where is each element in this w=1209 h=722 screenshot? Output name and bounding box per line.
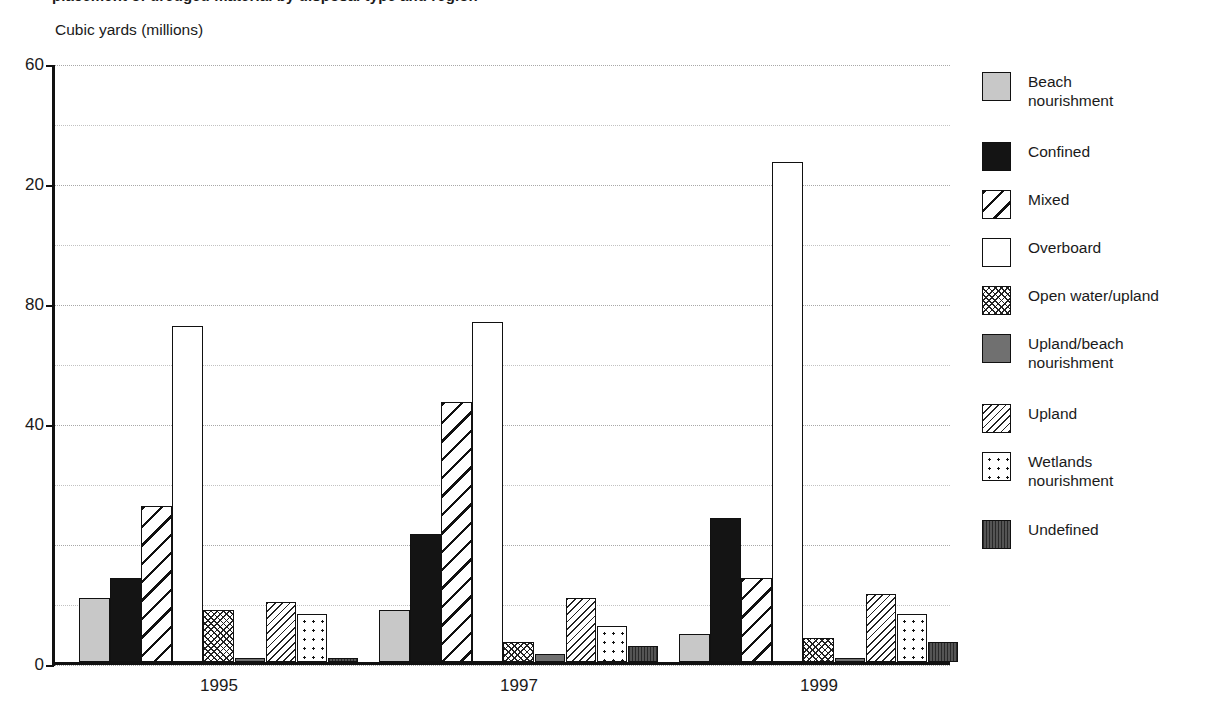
- bar-mixed-1999[interactable]: [741, 578, 772, 662]
- legend-item-wetlands-nourishment[interactable]: Wetlands nourishment: [982, 452, 1113, 490]
- legend-swatch-icon: [982, 286, 1011, 315]
- legend-item-label: Overboard: [1028, 238, 1101, 258]
- legend-item-upland-beach-nourishment[interactable]: Upland/beach nourishment: [982, 334, 1124, 372]
- legend-swatch-icon: [982, 142, 1011, 171]
- page-title-clipped: placement of dredged material by disposa…: [52, 0, 1052, 10]
- legend-swatch-icon: [982, 520, 1011, 549]
- legend-item-open-water-upland[interactable]: Open water/upland: [982, 286, 1159, 315]
- legend-swatch-icon: [982, 404, 1011, 433]
- legend-swatch-icon: [982, 452, 1011, 481]
- bar-wetlands-nourishment-1997[interactable]: [597, 626, 628, 662]
- y-tick-label: 20: [0, 175, 44, 195]
- bar-overboard-1997[interactable]: [472, 322, 503, 662]
- legend-item-label: Undefined: [1028, 520, 1099, 540]
- legend-item-overboard[interactable]: Overboard: [982, 238, 1101, 267]
- y-axis-tick-labels: 602080400: [0, 65, 44, 665]
- legend-item-label: Upland/beach nourishment: [1028, 334, 1124, 372]
- bar-undefined-1997[interactable]: [628, 646, 659, 662]
- y-tick-label: 40: [0, 415, 44, 435]
- legend-item-label: Beach nourishment: [1028, 72, 1113, 110]
- y-tick-label: 0: [0, 655, 44, 675]
- plot-area: [52, 65, 950, 665]
- y-axis-unit-caption: Cubic yards (millions): [55, 21, 203, 39]
- bar-overboard-1995[interactable]: [172, 326, 203, 662]
- y-tick-label: 80: [0, 295, 44, 315]
- legend-item-beach-nourishment[interactable]: Beach nourishment: [982, 72, 1113, 110]
- bar-series-container: [55, 65, 950, 662]
- y-tick-label: 60: [0, 55, 44, 75]
- bar-confined-1999[interactable]: [710, 518, 741, 662]
- bar-mixed-1995[interactable]: [141, 506, 172, 662]
- legend-item-label: Open water/upland: [1028, 286, 1159, 306]
- bar-overboard-1999[interactable]: [772, 162, 803, 662]
- legend-item-upland[interactable]: Upland: [982, 404, 1077, 433]
- bar-upland-beach-nourishment-1995[interactable]: [235, 658, 266, 662]
- bar-undefined-1995[interactable]: [328, 658, 359, 662]
- bar-wetlands-nourishment-1995[interactable]: [297, 614, 328, 662]
- bar-upland-1999[interactable]: [866, 594, 897, 662]
- gridline-major: [55, 665, 950, 666]
- legend-swatch-icon: [982, 334, 1011, 363]
- x-tick-label-1997: 1997: [500, 676, 538, 696]
- legend-swatch-icon: [982, 72, 1011, 101]
- bar-mixed-1997[interactable]: [441, 402, 472, 662]
- bar-confined-1995[interactable]: [110, 578, 141, 662]
- bar-beach-nourishment-1995[interactable]: [79, 598, 110, 662]
- chart-page: placement of dredged material by disposa…: [0, 0, 1209, 722]
- page-title-text: placement of dredged material by disposa…: [52, 0, 478, 4]
- bar-beach-nourishment-1997[interactable]: [379, 610, 410, 662]
- bar-upland-1997[interactable]: [566, 598, 597, 662]
- legend-item-mixed[interactable]: Mixed: [982, 190, 1069, 219]
- bar-wetlands-nourishment-1999[interactable]: [897, 614, 928, 662]
- bar-undefined-1999[interactable]: [928, 642, 959, 662]
- x-tick-label-1995: 1995: [200, 676, 238, 696]
- legend-swatch-icon: [982, 238, 1011, 267]
- bar-open-water-upland-1997[interactable]: [503, 642, 534, 662]
- bar-confined-1997[interactable]: [410, 534, 441, 662]
- bar-upland-1995[interactable]: [266, 602, 297, 662]
- bar-upland-beach-nourishment-1997[interactable]: [535, 654, 566, 662]
- bar-upland-beach-nourishment-1999[interactable]: [835, 658, 866, 662]
- legend-item-confined[interactable]: Confined: [982, 142, 1090, 171]
- legend-item-label: Wetlands nourishment: [1028, 452, 1113, 490]
- bar-beach-nourishment-1999[interactable]: [679, 634, 710, 662]
- x-tick-label-1999: 1999: [800, 676, 838, 696]
- bar-open-water-upland-1999[interactable]: [803, 638, 834, 662]
- legend-item-undefined[interactable]: Undefined: [982, 520, 1099, 549]
- legend-item-label: Upland: [1028, 404, 1077, 424]
- legend-item-label: Mixed: [1028, 190, 1069, 210]
- bar-open-water-upland-1995[interactable]: [203, 610, 234, 662]
- legend-swatch-icon: [982, 190, 1011, 219]
- legend-item-label: Confined: [1028, 142, 1090, 162]
